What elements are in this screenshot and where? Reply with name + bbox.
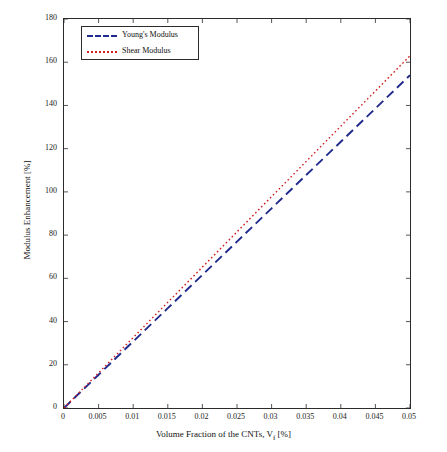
- x-tick-label: 0.05: [389, 412, 429, 421]
- legend-item-youngs-modulus: Young's Modulus: [82, 28, 198, 44]
- y-tick-label: 20: [19, 359, 57, 368]
- x-axis-label-main: Volume Fraction of the CNTs, V: [156, 429, 273, 439]
- legend-label-youngs-modulus: Young's Modulus: [122, 30, 178, 39]
- legend-item-shear-modulus: Shear Modulus: [82, 44, 198, 60]
- plot-area: [63, 18, 411, 409]
- y-tick-label: 0: [19, 402, 57, 411]
- series-line: [64, 75, 410, 408]
- x-axis-label: Volume Fraction of the CNTs, Vf [%]: [0, 429, 447, 442]
- legend-swatch-youngs-modulus: [87, 35, 117, 37]
- figure-canvas: 00.0050.010.0150.020.0250.030.0350.040.0…: [0, 0, 447, 452]
- plot-svg: [64, 19, 410, 408]
- series-line: [64, 56, 410, 408]
- x-axis-label-units: [%]: [275, 429, 291, 439]
- y-tick-label: 180: [19, 13, 57, 22]
- y-axis-label: Modulus Enhancement [%]: [22, 100, 32, 320]
- axis-tick-marks: [64, 19, 410, 408]
- y-tick-label: 160: [19, 56, 57, 65]
- legend-swatch-shear-modulus: [87, 51, 117, 53]
- chart-legend: Young's Modulus Shear Modulus: [81, 26, 199, 60]
- legend-label-shear-modulus: Shear Modulus: [122, 46, 171, 55]
- data-series-group: [64, 56, 410, 408]
